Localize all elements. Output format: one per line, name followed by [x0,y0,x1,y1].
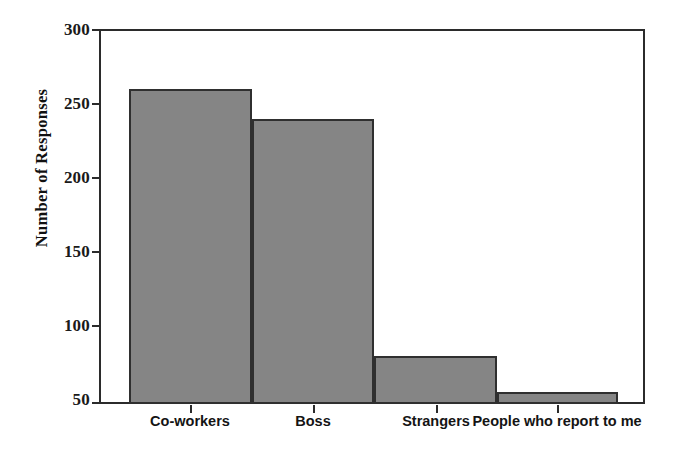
x-tick-mark-co-workers [190,405,192,413]
x-tick-mark-strangers [436,405,438,413]
x-tick-mark-boss [313,405,315,413]
x-tick-mark-people-who-report-to-me [557,405,559,413]
bars-group [99,29,645,404]
y-tick-label-250: 250 [4,95,90,112]
y-tick-label-300: 300 [4,21,90,38]
bar-strangers [374,356,497,404]
bar-people-who-report-to-me [497,392,618,404]
y-axis-labels: 300 250 200 150 100 50 [0,0,90,449]
bar-boss [252,119,374,404]
bar-chart: Number of Responses 300 250 200 150 100 … [0,0,675,449]
y-tick-label-100: 100 [4,317,90,334]
y-tick-label-200: 200 [4,169,90,186]
y-tick-label-150: 150 [4,243,90,260]
y-tick-label-50: 50 [4,391,90,408]
x-tick-label-boss: Boss [253,414,373,430]
x-tick-label-people-who-report-to-me: People who report to me [462,414,652,430]
x-tick-label-co-workers: Co-workers [120,414,260,430]
bar-co-workers [129,89,252,404]
